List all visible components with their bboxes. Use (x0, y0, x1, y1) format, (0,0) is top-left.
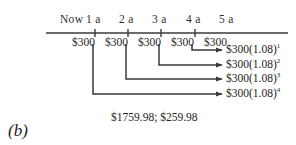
future-value-expression-3: $300(1.08)3 (226, 73, 280, 85)
cash-flow-amount-1: $300 (72, 37, 95, 49)
period-label-5: 4 a (186, 14, 201, 26)
future-value-base-3: $300(1.08) (226, 72, 277, 84)
cash-flow-amount-2: $300 (105, 37, 128, 49)
period-label-4: 3 a (152, 14, 167, 26)
cash-flow-timeline-figure: Now1 a2 a3 a4 a5 a $300$300$300$300$300 … (0, 0, 296, 145)
panel-label: (b) (8, 122, 28, 139)
period-label-1: Now (60, 14, 83, 26)
future-value-base-4: $300(1.08) (226, 87, 277, 99)
cash-flow-amount-4: $300 (171, 37, 194, 49)
future-value-base-2: $300(1.08) (226, 58, 277, 70)
future-value-exponent-4: 4 (277, 86, 281, 94)
future-value-base-1: $300(1.08) (226, 43, 277, 55)
totals-label: $1759.98; $259.98 (111, 112, 198, 124)
future-value-connectors (93, 44, 222, 94)
cash-flow-amount-3: $300 (138, 37, 161, 49)
future-value-exponent-2: 2 (277, 57, 281, 65)
period-label-6: 5 a (219, 14, 234, 26)
connector-to-future-value-4 (93, 44, 222, 94)
future-value-exponent-1: 1 (277, 42, 281, 50)
period-label-3: 2 a (119, 14, 134, 26)
period-label-2: 1 a (86, 14, 101, 26)
cash-flow-amount-5: $300 (204, 37, 227, 49)
future-value-exponent-3: 3 (277, 71, 281, 79)
future-value-expression-1: $300(1.08)1 (226, 44, 280, 56)
future-value-expression-2: $300(1.08)2 (226, 59, 280, 71)
future-value-expression-4: $300(1.08)4 (226, 88, 280, 100)
